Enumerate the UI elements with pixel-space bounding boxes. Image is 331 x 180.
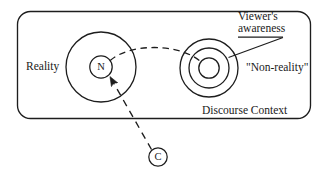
discourse-context-label: Discourse Context [202,104,287,116]
viewer-awareness-label: Viewer's awareness [238,10,284,35]
viewer-awareness-line2: awareness [238,22,284,34]
c-node-label: C [151,152,165,163]
c-to-n-dashed-arrow [111,78,152,150]
non-reality-label: "Non-reality" [246,61,308,73]
n-node-label: N [94,62,108,73]
viewer-awareness-line1: Viewer's [238,10,278,22]
reality-label: Reality [26,60,59,72]
viewer-awareness-leader-line [229,38,284,58]
diagram-canvas: Reality "Non-reality" Discourse Context … [0,0,331,180]
nonreality-inner-circle [199,58,219,78]
